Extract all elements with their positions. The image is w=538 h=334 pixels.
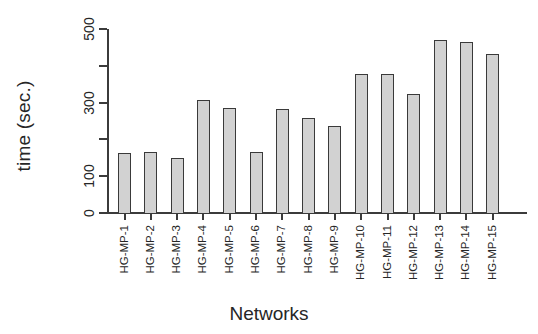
x-tick-label: HG-MP-2 (144, 225, 158, 301)
x-tick-label: HG-MP-7 (275, 225, 289, 301)
x-tick-label: HG-MP-8 (302, 225, 316, 301)
bar (223, 108, 236, 214)
x-tick-label: HG-MP-9 (328, 225, 342, 301)
bar (407, 94, 420, 214)
bar-chart: time (sec.) 0100300500 HG-MP-1HG-MP-2HG-… (0, 0, 538, 334)
bar (434, 40, 447, 214)
bar (486, 54, 499, 214)
bar (197, 100, 210, 214)
bar (355, 74, 368, 214)
x-tick-label: HG-MP-4 (196, 225, 210, 301)
bar (381, 74, 394, 214)
bar (460, 42, 473, 214)
bar (276, 109, 289, 214)
x-tick-label: HG-MP-3 (170, 225, 184, 301)
x-tick-label: HG-MP-15 (486, 225, 500, 301)
bar (118, 153, 131, 214)
x-tick-label: HG-MP-1 (118, 225, 132, 301)
bar (171, 158, 184, 214)
x-axis-title: Networks (0, 303, 538, 325)
plot-area (0, 0, 538, 334)
x-tick-label: HG-MP-12 (407, 225, 421, 301)
x-tick-label: HG-MP-10 (354, 225, 368, 301)
bar (328, 126, 341, 214)
x-tick-label: HG-MP-6 (249, 225, 263, 301)
x-tick-label: HG-MP-13 (433, 225, 447, 301)
x-tick-label: HG-MP-11 (381, 225, 395, 301)
bar (302, 118, 315, 214)
bar (250, 152, 263, 214)
x-tick-label: HG-MP-14 (459, 225, 473, 301)
x-tick-label: HG-MP-5 (223, 225, 237, 301)
bar (144, 152, 157, 214)
